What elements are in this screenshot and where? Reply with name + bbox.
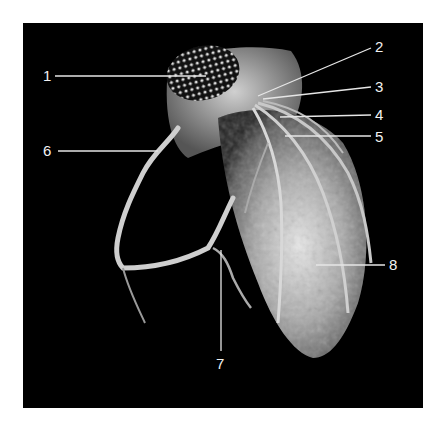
heart-illustration xyxy=(23,23,423,408)
label-3: 3 xyxy=(375,79,383,94)
label-2: 2 xyxy=(375,39,383,54)
heart-render-image: 1 2 3 4 5 6 7 8 xyxy=(23,23,423,408)
label-4: 4 xyxy=(375,107,383,122)
label-8: 8 xyxy=(389,257,397,272)
right-coronary-artery xyxy=(117,128,233,268)
label-1: 1 xyxy=(43,68,51,83)
label-5: 5 xyxy=(375,129,383,144)
label-7: 7 xyxy=(216,356,224,371)
label-6: 6 xyxy=(43,143,51,158)
